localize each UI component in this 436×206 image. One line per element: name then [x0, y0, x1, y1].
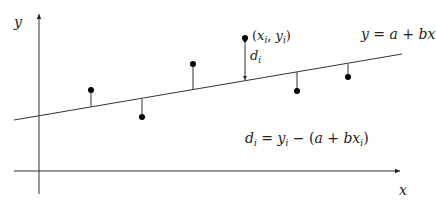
data-point [139, 114, 145, 120]
data-point [294, 88, 300, 94]
residual-equation: di = yi − (a + bxi) [245, 130, 369, 148]
line-equation: y = a + bx [360, 26, 436, 42]
data-points [88, 35, 351, 120]
point-label: (xi, yi) [252, 28, 291, 45]
data-point-highlighted [242, 35, 248, 41]
distance-label: di [250, 48, 261, 65]
data-point [345, 74, 351, 80]
y-axis-label: y [13, 14, 23, 30]
data-point [88, 87, 94, 93]
regression-line [14, 54, 402, 120]
residual-stems [91, 64, 348, 117]
data-point [190, 61, 196, 67]
x-axis-label: x [399, 182, 407, 198]
least-squares-diagram: y x (xi, yi) di y = a + bx di = yi − (a … [0, 0, 436, 206]
